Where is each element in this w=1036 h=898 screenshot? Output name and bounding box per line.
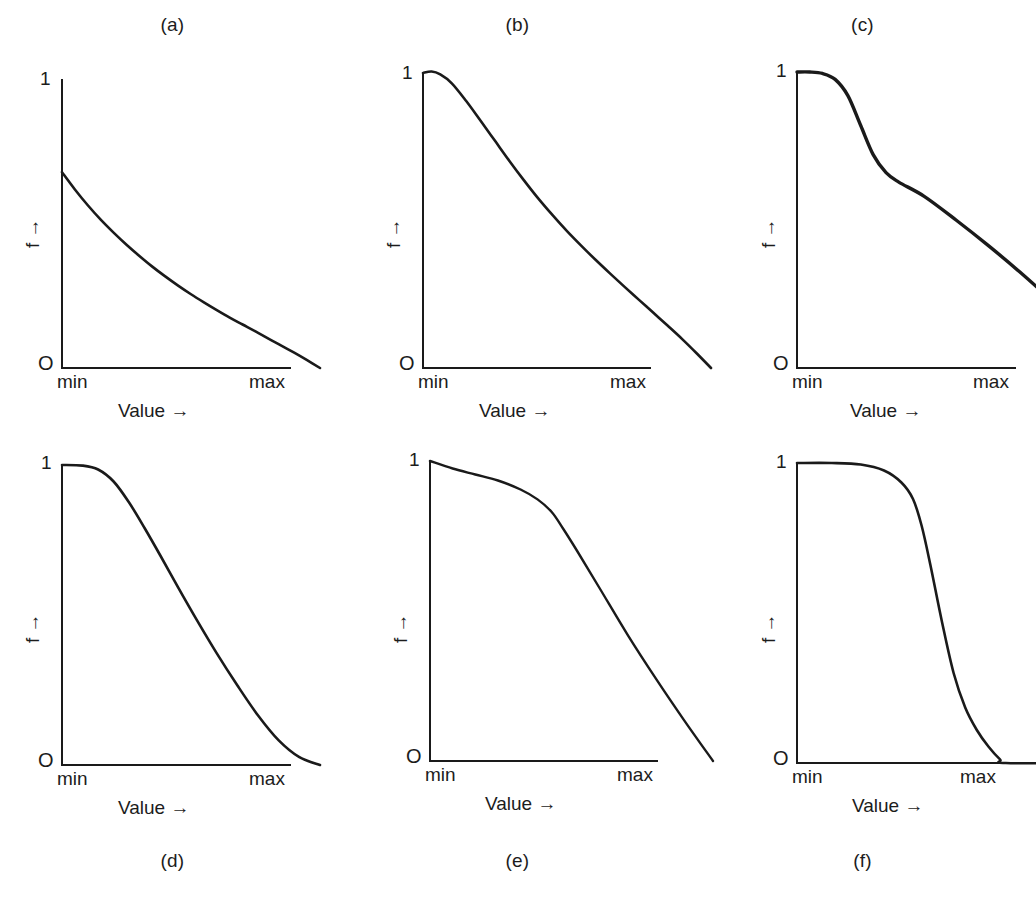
panel-d-xaxis-title: Value → bbox=[118, 797, 189, 819]
panel-b-xtick-min: min bbox=[418, 371, 449, 393]
panel-b-ytick-1: 1 bbox=[402, 62, 413, 84]
panel-a-xtick-max: max bbox=[249, 371, 285, 393]
panel-d-caption: (d) bbox=[0, 850, 345, 872]
panel-d-xtick-max: max bbox=[249, 768, 285, 790]
panel-d-svg bbox=[0, 430, 345, 790]
panel-c-ytick-0: O bbox=[773, 352, 789, 375]
panel-d-yaxis-title: f → bbox=[22, 613, 44, 643]
panel-a-curve bbox=[62, 172, 320, 368]
panel-c-xtick-max: max bbox=[973, 371, 1009, 393]
panel-b-ytick-0: O bbox=[399, 352, 415, 375]
panel-b-plot: 1 O min max f → Value → bbox=[345, 0, 690, 400]
panel-e: 1 O min max f → Value → (e) bbox=[345, 430, 690, 898]
panel-b-axes bbox=[423, 73, 650, 368]
panel-d-axes bbox=[62, 465, 290, 765]
panel-c: (c) 1 O min max f → Value → bbox=[690, 0, 1035, 430]
panel-b: (b) 1 O min max f → Value → bbox=[345, 0, 690, 430]
panel-e-plot: 1 O min max f → Value → bbox=[345, 430, 690, 790]
panel-d-xtick-min: min bbox=[57, 768, 88, 790]
panel-c-ytick-1: 1 bbox=[776, 60, 787, 82]
panel-e-svg bbox=[345, 430, 690, 790]
panel-d-ytick-1: 1 bbox=[41, 452, 52, 474]
panel-e-xtick-max: max bbox=[617, 764, 653, 786]
panel-f: 1 O min max f → Value → (f) bbox=[690, 430, 1035, 898]
panel-e-curve bbox=[430, 461, 713, 761]
panel-c-xtick-min: min bbox=[792, 371, 823, 393]
panel-b-yaxis-title: f → bbox=[383, 218, 405, 248]
panel-f-xaxis-title: Value → bbox=[852, 795, 923, 817]
panel-b-xaxis-title: Value → bbox=[479, 400, 550, 422]
panel-f-caption: (f) bbox=[690, 850, 1035, 872]
panel-f-ytick-1: 1 bbox=[776, 451, 787, 473]
panel-c-axes bbox=[797, 72, 1015, 368]
panel-f-xtick-min: min bbox=[792, 766, 823, 788]
panel-f-curve bbox=[797, 463, 1036, 763]
panel-e-caption: (e) bbox=[345, 850, 690, 872]
panel-a-xtick-min: min bbox=[57, 371, 88, 393]
panel-c-svg bbox=[690, 0, 1036, 400]
panel-b-curve bbox=[423, 72, 711, 368]
figure-membership-functions: (a) 1 O min max f → Value → (b) 1 O min … bbox=[0, 0, 1036, 898]
panel-c-curve bbox=[797, 72, 1036, 368]
panel-a-svg bbox=[0, 0, 345, 400]
panel-f-ytick-0: O bbox=[773, 747, 789, 770]
panel-a-ytick-1: 1 bbox=[40, 68, 51, 90]
panel-a-yaxis-title: f → bbox=[22, 218, 44, 248]
panel-f-plot: 1 O min max f → Value → bbox=[690, 430, 1036, 790]
panel-a-plot: 1 O min max f → Value → bbox=[0, 0, 345, 400]
panel-f-yaxis-title: f → bbox=[758, 613, 780, 643]
panel-e-ytick-1: 1 bbox=[409, 449, 420, 471]
panel-d-curve bbox=[62, 465, 320, 765]
panel-c-xaxis-title: Value → bbox=[850, 400, 921, 422]
panel-b-xtick-max: max bbox=[610, 371, 646, 393]
panel-a-ytick-0: O bbox=[38, 352, 54, 375]
panel-c-plot: 1 O min max f → Value → bbox=[690, 0, 1036, 400]
panel-a-axes bbox=[62, 80, 290, 368]
panel-c-yaxis-title: f → bbox=[758, 218, 780, 248]
panel-e-yaxis-title: f → bbox=[390, 613, 412, 643]
panel-e-axes bbox=[430, 461, 657, 761]
panel-b-svg bbox=[345, 0, 690, 400]
panel-a: (a) 1 O min max f → Value → bbox=[0, 0, 345, 430]
panel-e-xtick-min: min bbox=[425, 764, 456, 786]
panel-a-xaxis-title: Value → bbox=[118, 400, 189, 422]
panel-e-xaxis-title: Value → bbox=[485, 793, 556, 815]
panel-d: 1 O min max f → Value → (d) bbox=[0, 430, 345, 898]
panel-f-xtick-max: max bbox=[960, 766, 996, 788]
panel-e-ytick-0: O bbox=[406, 745, 422, 768]
panel-f-svg bbox=[690, 430, 1036, 790]
panel-d-ytick-0: O bbox=[38, 749, 54, 772]
panel-d-plot: 1 O min max f → Value → bbox=[0, 430, 345, 790]
